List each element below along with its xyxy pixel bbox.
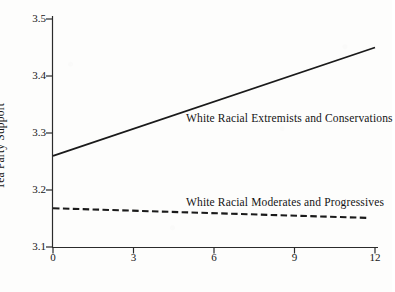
x-axis-ticks bbox=[53, 248, 375, 254]
y-axis-ticks bbox=[46, 19, 53, 247]
series-lines bbox=[53, 48, 375, 218]
series-label-extremists: White Racial Extremists and Conservation… bbox=[186, 112, 393, 124]
series-label-moderates: White Racial Moderates and Progressives bbox=[186, 196, 384, 208]
